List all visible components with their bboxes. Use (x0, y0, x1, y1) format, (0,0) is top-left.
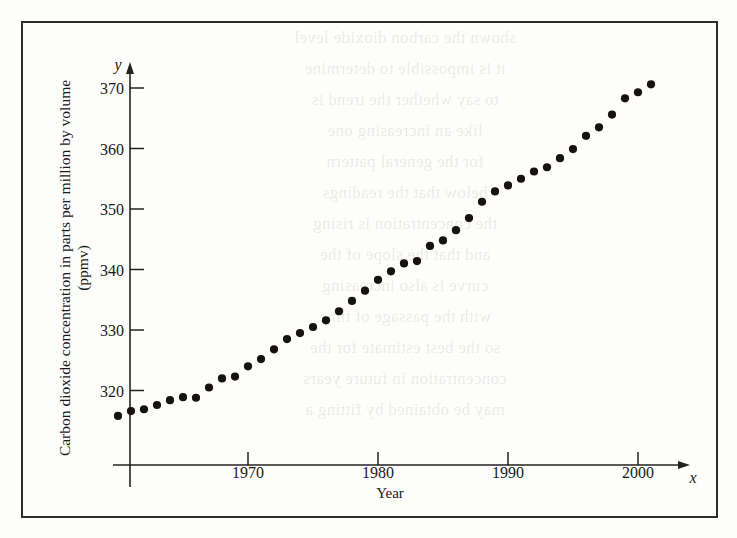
data-point (517, 175, 525, 183)
data-point (634, 88, 642, 96)
x-tick-label: 1990 (492, 464, 524, 481)
data-point (361, 287, 369, 295)
y-axis-arrowhead (126, 62, 134, 74)
data-point (335, 307, 343, 315)
data-point (270, 345, 278, 353)
y-tick-label: 340 (100, 262, 124, 279)
data-point (595, 123, 603, 131)
data-point (478, 198, 486, 206)
data-point (205, 383, 213, 391)
x-axis-ticks: 1970198019902000 (232, 452, 654, 481)
x-tick-label: 1970 (232, 464, 264, 481)
data-point (439, 236, 447, 244)
data-point (491, 187, 499, 195)
data-point (452, 226, 460, 234)
data-point (504, 181, 512, 189)
data-point (179, 393, 187, 401)
data-point (127, 407, 135, 415)
y-axis-variable-label: y (112, 56, 122, 74)
data-point (192, 394, 200, 402)
y-axis-title-line2: (ppmv) (74, 245, 92, 291)
data-point (413, 257, 421, 265)
x-tick-label: 1980 (362, 464, 394, 481)
axes (113, 62, 690, 487)
data-point (309, 323, 317, 331)
data-point (231, 372, 239, 380)
y-tick-label: 360 (100, 141, 124, 158)
data-point (569, 145, 577, 153)
data-point (647, 80, 655, 88)
data-point (283, 335, 291, 343)
x-axis-title: Year (376, 485, 404, 501)
data-point (465, 214, 473, 222)
data-point (114, 412, 122, 420)
data-point (153, 401, 161, 409)
data-point (582, 132, 590, 140)
data-point (257, 355, 265, 363)
data-point (608, 111, 616, 119)
y-tick-label: 320 (100, 383, 124, 400)
y-axis-ticks: 320330340350360370 (100, 80, 144, 400)
data-point (296, 329, 304, 337)
data-point (374, 276, 382, 284)
y-tick-label: 350 (100, 201, 124, 218)
data-point (400, 259, 408, 267)
data-point (140, 405, 148, 413)
data-point-series (114, 80, 655, 420)
data-point (322, 316, 330, 324)
figure-page: shown the carbon dioxide level it is imp… (0, 0, 737, 538)
data-point (530, 167, 538, 175)
y-axis-title-line1: Carbon dioxide concentration in parts pe… (56, 80, 73, 456)
data-point (244, 362, 252, 370)
x-axis-variable-label: x (688, 469, 696, 486)
data-point (621, 94, 629, 102)
y-tick-label: 370 (100, 80, 124, 97)
data-point (426, 242, 434, 250)
data-point (556, 154, 564, 162)
data-point (387, 267, 395, 275)
data-point (218, 374, 226, 382)
y-tick-label: 330 (100, 322, 124, 339)
x-tick-label: 2000 (622, 464, 654, 481)
x-axis-arrowhead (678, 461, 690, 469)
data-point (543, 163, 551, 171)
co2-scatter-chart: 320330340350360370 1970198019902000 y x … (0, 0, 737, 538)
data-point (166, 396, 174, 404)
data-point (348, 297, 356, 305)
